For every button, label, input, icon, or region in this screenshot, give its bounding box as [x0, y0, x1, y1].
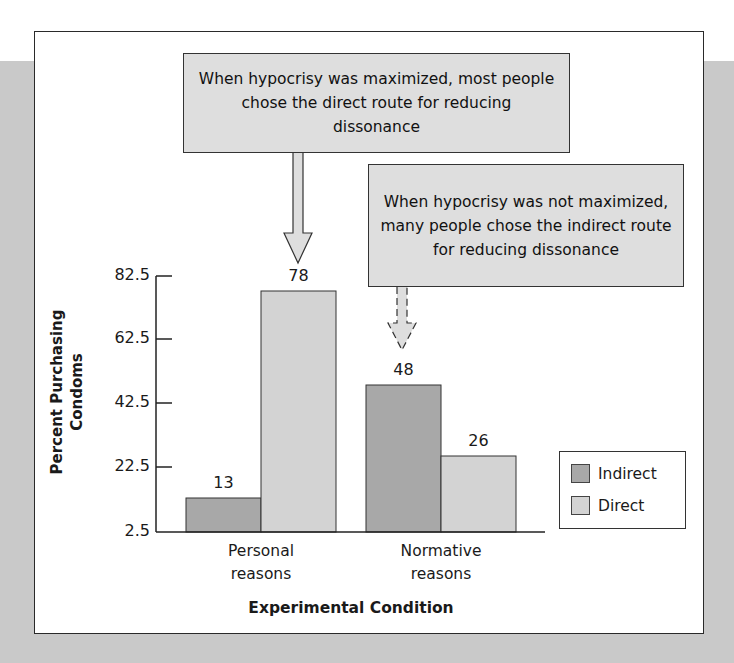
bar-normative-direct: [441, 456, 516, 532]
bar-value-label: 78: [261, 266, 336, 285]
y-axis-ticks: [156, 276, 172, 467]
legend-swatch-direct: [571, 496, 590, 515]
legend-swatch-indirect: [571, 464, 590, 483]
bar-value-label: 48: [366, 360, 441, 379]
legend-label: Direct: [598, 497, 644, 515]
bar-value-label: 13: [186, 473, 261, 492]
x-category-label-normative: Normativereasons: [361, 540, 521, 586]
y-axis-title: Percent PurchasingCondoms: [47, 292, 87, 492]
y-tick-label: 82.5: [80, 265, 150, 284]
y-tick-label: 2.5: [80, 521, 150, 540]
bar-personal-direct: [261, 291, 336, 532]
x-category-label-personal: Personalreasons: [181, 540, 341, 586]
y-tick-label: 22.5: [80, 456, 150, 475]
arrow-down-icon: [388, 287, 416, 350]
annotation-callout-maximized: When hypocrisy was maximized, most peopl…: [183, 53, 570, 153]
legend-label: Indirect: [598, 465, 657, 483]
bar-personal-indirect: [186, 498, 261, 532]
bar-normative-indirect: [366, 385, 441, 532]
y-tick-label: 62.5: [80, 328, 150, 347]
callout-text: When hypocrisy was not maximized, many p…: [377, 190, 675, 262]
y-tick-label: 42.5: [80, 392, 150, 411]
x-axis-title: Experimental Condition: [156, 599, 546, 617]
legend-item-indirect: Indirect: [571, 464, 657, 483]
arrow-down-icon: [284, 153, 312, 263]
legend: Indirect Direct: [559, 451, 686, 529]
annotation-callout-not-maximized: When hypocrisy was not maximized, many p…: [368, 164, 684, 287]
callout-text: When hypocrisy was maximized, most peopl…: [196, 67, 557, 139]
legend-item-direct: Direct: [571, 496, 644, 515]
bar-value-label: 26: [441, 431, 516, 450]
